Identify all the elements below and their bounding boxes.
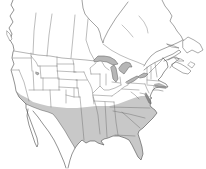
- great-salt-lake: [36, 72, 39, 75]
- lake-ontario: [139, 73, 148, 78]
- long-island: [153, 90, 163, 91]
- lake-huron: [119, 62, 132, 74]
- map-container: [0, 0, 206, 169]
- lake-michigan: [111, 65, 118, 82]
- hudson-bay-coastline: [82, 0, 128, 43]
- west-coastline: [9, 0, 66, 168]
- cape-breton-island: [188, 62, 195, 68]
- lake-erie: [126, 76, 139, 84]
- range-map: [0, 0, 206, 169]
- st-lawrence-gaspe-coastline: [144, 50, 181, 70]
- labrador-quebec-coastline: [144, 0, 183, 66]
- canada-province-borders: [33, 13, 95, 61]
- lake-superior: [94, 56, 118, 65]
- nova-scotia: [172, 62, 191, 74]
- range-shaded-region: [16, 91, 157, 160]
- prince-edward-island: [175, 58, 184, 61]
- newfoundland: [183, 37, 203, 53]
- us-canada-border: [14, 51, 163, 73]
- quebec-rivers: [122, 16, 148, 37]
